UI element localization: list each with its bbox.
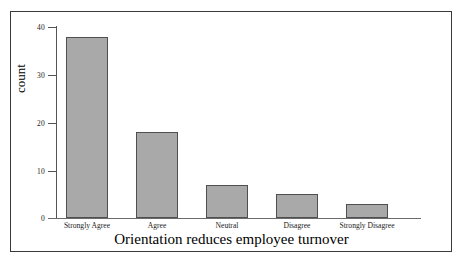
x-tick-label-agree: Agree xyxy=(117,221,197,230)
x-axis-title: Orientation reduces employee turnover xyxy=(0,231,463,248)
x-axis-spine xyxy=(48,218,421,219)
bar-agree xyxy=(136,132,178,218)
x-tick-label-strongly-disagree: Strongly Disagree xyxy=(322,221,412,230)
x-tick-label-neutral: Neutral xyxy=(187,221,267,230)
bars-layer xyxy=(0,0,463,218)
bar-strongly-agree xyxy=(66,37,108,218)
bar-disagree xyxy=(276,194,318,218)
bar-chart-figure: count 40 30 20 10 0 Strongly Agree Agree… xyxy=(0,0,463,267)
bar-neutral xyxy=(206,185,248,218)
bar-strongly-disagree xyxy=(346,204,388,218)
x-tick-label-strongly-agree: Strongly Agree xyxy=(47,221,127,230)
